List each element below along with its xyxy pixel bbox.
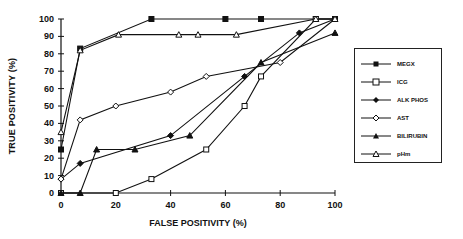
legend-item-ast: AST — [361, 113, 441, 123]
legend-item-alk-phos: ALK PHOS — [361, 95, 441, 105]
open-diamond-marker — [113, 103, 119, 109]
open-square-marker — [149, 177, 154, 182]
y-tick-label: 90 — [44, 31, 54, 41]
y-tick-label: 50 — [44, 101, 54, 111]
open-diamond-marker — [77, 117, 83, 123]
open-diamond-marker-icon — [361, 113, 391, 123]
legend-item-icg: ICG — [361, 77, 441, 87]
y-tick-label: 70 — [44, 66, 54, 76]
open-triangle-marker-icon — [361, 149, 391, 159]
x-tick-label: 100 — [327, 200, 342, 210]
filled-triangle-marker — [332, 30, 338, 35]
legend-item-bilirubin: BILIRUBIN — [361, 131, 441, 141]
y-tick-label: 80 — [44, 49, 54, 59]
open-diamond-marker — [168, 89, 174, 95]
legend-label: BILIRUBIN — [397, 131, 427, 141]
filled-square-marker — [149, 17, 154, 22]
legend: MEGX ICG ALK PHOS AST BILIRUBIN pHm — [354, 48, 442, 163]
x-tick-label: 60 — [220, 200, 230, 210]
open-square-marker-icon — [361, 77, 391, 87]
x-axis-label: FALSE POSITIVITY (%) — [149, 218, 246, 228]
x-tick-label: 0 — [58, 200, 63, 210]
filled-square-marker — [223, 17, 228, 22]
filled-square-marker — [259, 17, 264, 22]
y-tick-label: 30 — [44, 136, 54, 146]
filled-diamond-marker-icon — [361, 95, 391, 105]
legend-label: pHm — [397, 149, 410, 159]
y-axis-label: TRUE POSITIVITY (%) — [7, 58, 17, 155]
series-line-megx — [61, 19, 335, 150]
x-tick-label: 40 — [166, 200, 176, 210]
legend-label: AST — [397, 113, 409, 123]
open-square-marker — [242, 104, 247, 109]
x-tick-label: 20 — [111, 200, 121, 210]
open-diamond-marker — [203, 73, 209, 79]
filled-square-marker — [59, 147, 64, 152]
y-tick-label: 40 — [44, 118, 54, 128]
legend-label: MEGX — [397, 59, 415, 69]
open-square-marker — [259, 74, 264, 79]
series-line-icg — [61, 19, 335, 193]
series-line-alk-phos — [61, 19, 335, 179]
filled-square-marker-icon — [361, 59, 391, 69]
y-tick-label: 10 — [44, 171, 54, 181]
open-square-marker — [113, 191, 118, 196]
x-tick-label: 80 — [275, 200, 285, 210]
legend-label: ALK PHOS — [397, 95, 428, 105]
series-line-ast — [61, 19, 335, 179]
legend-item-phm: pHm — [361, 149, 441, 159]
y-tick-label: 60 — [44, 84, 54, 94]
legend-label: ICG — [397, 77, 408, 87]
y-tick-label: 100 — [39, 14, 54, 24]
y-tick-label: 20 — [44, 153, 54, 163]
open-triangle-marker — [58, 129, 64, 135]
open-square-marker — [204, 147, 209, 152]
y-tick-label: 0 — [49, 188, 54, 198]
series-line-bilirubin — [61, 33, 335, 193]
legend-item-megx: MEGX — [361, 59, 441, 69]
filled-triangle-marker-icon — [361, 131, 391, 141]
